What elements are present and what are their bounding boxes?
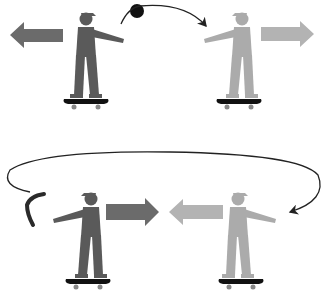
- skater-thrower-dark: [70, 13, 124, 99]
- skateboard-momentum-diagram: [0, 0, 329, 298]
- skateboard: [64, 99, 109, 110]
- skater-dark-bottom: [53, 193, 107, 279]
- boomerang-trajectory-loop: [8, 152, 321, 212]
- boomerang-icon: [27, 194, 44, 225]
- skateboard: [217, 99, 262, 110]
- left-arrow-icon: [10, 22, 63, 48]
- skateboard: [66, 279, 111, 290]
- left-arrow-icon: [169, 199, 223, 225]
- right-arrow-icon: [106, 198, 159, 226]
- skater-light-bottom: [222, 193, 276, 279]
- skateboard: [219, 279, 264, 290]
- right-arrow-icon: [261, 21, 314, 47]
- skater-catcher-light: [204, 13, 258, 99]
